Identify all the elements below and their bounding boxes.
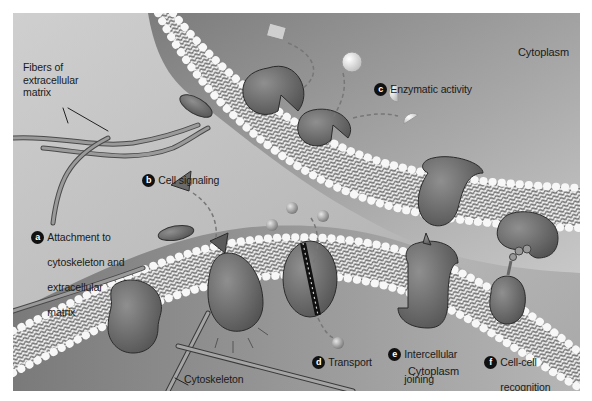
- solute-1: [266, 219, 278, 231]
- badge-e: e: [388, 348, 401, 361]
- label-fibers: Fibers ofextracellularmatrix: [23, 61, 78, 99]
- badge-d: d: [312, 356, 325, 369]
- function-c-label: cEnzymatic activity: [363, 70, 472, 108]
- solute-3: [317, 210, 329, 222]
- membrane-protein-functions-diagram: Fibers ofextracellularmatrix Cytoplasm C…: [13, 13, 580, 391]
- function-e-label: eIntercellular joining: [377, 335, 457, 391]
- label-cytoplasm-top: Cytoplasm: [518, 46, 569, 59]
- substrate-circle: [342, 52, 362, 72]
- solute-2: [286, 202, 298, 214]
- function-b-label: bCell signaling: [131, 161, 219, 199]
- function-a-label: aAttachment to cytoskeleton and extracel…: [20, 218, 124, 331]
- badge-f: f: [484, 356, 497, 369]
- badge-a: a: [31, 231, 44, 244]
- function-d-label: dTransport: [301, 343, 372, 381]
- badge-b: b: [142, 174, 155, 187]
- diagram-artwork: [13, 13, 580, 391]
- badge-c: c: [374, 83, 387, 96]
- function-f-label: fCell-cell recognition: [473, 343, 551, 391]
- label-cytoskeleton: Cytoskeleton: [184, 373, 244, 386]
